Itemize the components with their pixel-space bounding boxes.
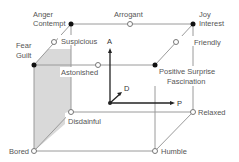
label-fear: Fear — [16, 41, 31, 50]
axis-label-d: D — [124, 84, 129, 93]
dominance-axis — [110, 94, 120, 103]
label-guilt: Guilt — [16, 51, 31, 60]
vertex-positive-surprise — [153, 63, 158, 68]
origin-dot — [108, 101, 112, 105]
label-contempt: Contempt — [33, 19, 66, 28]
label-relaxed: Relaxed — [198, 108, 226, 117]
label-fascination: Fascination — [167, 77, 205, 86]
vertex-bored — [32, 149, 37, 154]
shaded-face — [34, 49, 71, 151]
axis-label-p: P — [177, 99, 182, 108]
label-positive-surprise: Positive Surprise — [159, 67, 215, 76]
vertex-astonished — [96, 63, 101, 68]
vertex-suspicious — [52, 40, 57, 45]
pad-emotion-cube-diagram: A P D Anger Contempt Arrogant Joy Intere… — [0, 0, 239, 162]
vertex-arrogant — [128, 22, 133, 27]
label-friendly: Friendly — [194, 38, 221, 47]
label-arrogant: Arrogant — [114, 10, 143, 19]
vertex-anger — [69, 22, 74, 27]
label-bored: Bored — [9, 147, 29, 156]
vertex-relaxed — [191, 110, 196, 115]
label-disdainful: Disdainful — [68, 117, 101, 126]
label-humble: Humble — [161, 147, 187, 156]
label-suspicious: Suspicious — [61, 37, 97, 46]
arrow-up-icon — [108, 48, 112, 53]
label-anger: Anger — [33, 10, 53, 19]
vertex-disdainful — [69, 110, 74, 115]
vertex-joy — [191, 22, 196, 27]
label-astonished: Astonished — [61, 68, 98, 77]
vertex-fear — [32, 63, 37, 68]
vertex-friendly — [174, 40, 179, 45]
label-joy: Joy — [199, 10, 211, 19]
vertex-humble — [153, 149, 158, 154]
arrow-right-icon — [170, 101, 175, 105]
axis-label-a: A — [107, 37, 112, 46]
label-interest: Interest — [199, 19, 224, 28]
